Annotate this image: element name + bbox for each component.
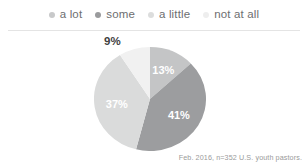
pie-slice-label-some: 41%: [168, 109, 190, 121]
pie-slice-label-a-lot: 13%: [152, 64, 174, 76]
pie-chart: 13%41%37%: [94, 47, 206, 151]
legend-item-a-lot[interactable]: a lot: [49, 9, 83, 21]
chart-footnote: Feb. 2016, n=352 U.S. youth pastors.: [179, 153, 302, 162]
legend-item-some[interactable]: some: [95, 9, 135, 21]
legend-label-not-at-all: not at all: [214, 9, 259, 21]
legend-dot-a-little: [148, 12, 154, 18]
chart-legend: a lot some a little not at all: [0, 9, 308, 21]
legend-label-a-lot: a lot: [60, 9, 83, 21]
legend-item-not-at-all[interactable]: not at all: [203, 9, 259, 21]
legend-label-a-little: a little: [159, 9, 190, 21]
legend-dot-some: [95, 12, 101, 18]
pie-chart-area: 9% 13%41%37%: [0, 31, 308, 166]
legend-label-some: some: [106, 9, 135, 21]
legend-item-a-little[interactable]: a little: [148, 9, 190, 21]
pie-slice-label-a-little: 37%: [106, 98, 128, 110]
legend-dot-a-lot: [49, 12, 55, 18]
legend-dot-not-at-all: [203, 12, 209, 18]
pie-slice-label-not-at-all: 9%: [104, 35, 121, 47]
